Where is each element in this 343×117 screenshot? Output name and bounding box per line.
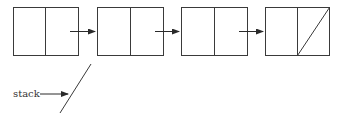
linked-list-diagram: stack <box>0 0 343 117</box>
list-node-3 <box>182 8 248 56</box>
null-slash-icon <box>60 64 91 113</box>
list-node-4 <box>266 8 330 56</box>
null-pointer-slash-icon <box>298 8 330 56</box>
list-node-2 <box>98 8 164 56</box>
stack-label: stack <box>13 88 41 99</box>
list-node-1 <box>14 8 79 56</box>
